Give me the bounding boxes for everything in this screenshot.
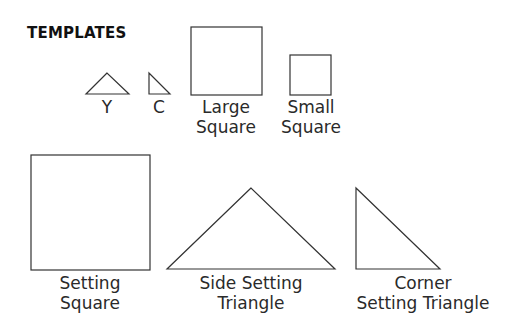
side-setting-triangle-shape <box>167 188 335 269</box>
large-square-shape <box>191 27 262 95</box>
c-triangle-shape <box>149 73 170 94</box>
corner-setting-triangle-shape <box>356 188 440 269</box>
side-setting-triangle-label: Side Setting Triangle <box>199 273 302 313</box>
small-square-label: Small Square <box>281 97 341 137</box>
setting-square-shape <box>31 155 150 270</box>
large-square-label: Large Square <box>196 97 256 137</box>
c-label: C <box>153 97 165 117</box>
y-label: Y <box>102 97 112 117</box>
setting-square-label: Setting Square <box>60 273 121 313</box>
y-triangle-shape <box>86 73 129 94</box>
corner-setting-triangle-label: Corner Setting Triangle <box>356 273 489 313</box>
small-square-shape <box>290 55 331 95</box>
